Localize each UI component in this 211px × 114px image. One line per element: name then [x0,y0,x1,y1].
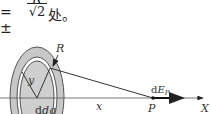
line-to-p [50,68,153,98]
label-x: x [96,100,103,113]
label-axis-x: X [200,102,210,114]
label-p: P [147,102,156,114]
label-dq: ddq [35,104,56,114]
point-p-dot [151,96,155,100]
label-de-p: dEP [151,84,170,97]
label-r: R [55,42,64,55]
charged-ring-diagram: R y ddq x P dEP X [0,0,211,114]
label-y: y [27,74,35,87]
